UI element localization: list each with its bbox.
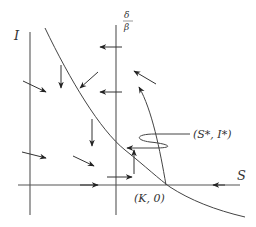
phase-plane-diagram: I S δ β (K, 0) (S*, I*) [0, 0, 256, 227]
trajectory-upward [139, 87, 166, 185]
arrow-right-down-1 [23, 81, 46, 92]
delta-label: δ [124, 10, 129, 20]
arrow-right-down-3 [73, 156, 94, 166]
arrow-up-left-1 [134, 71, 156, 84]
beta-label: β [123, 22, 129, 32]
nullcline-curve [45, 28, 245, 217]
k-zero-label: (K, 0) [134, 192, 165, 205]
s-star-i-star-label: (S*, I*) [193, 128, 231, 141]
i-axis-label: I [13, 28, 20, 43]
s-axis-label: S [237, 168, 246, 183]
arrow-left-down-1 [80, 72, 98, 88]
arrow-right-down-2 [22, 152, 46, 158]
